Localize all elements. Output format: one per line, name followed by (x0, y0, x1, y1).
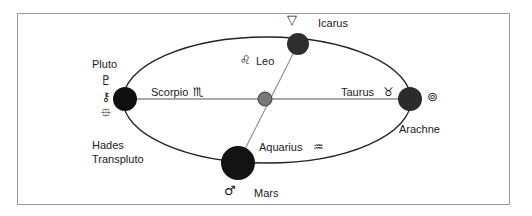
label-taurus: Taurus (341, 86, 374, 99)
arachne-glyph: ⊚ (427, 90, 438, 104)
label-leo: Leo (256, 55, 274, 68)
label-pluto: Pluto (92, 58, 117, 71)
label-transpluto: Transpluto (92, 153, 144, 166)
scorpio-glyph: ♏ (193, 85, 204, 99)
aquarius-glyph: ♒ (313, 140, 324, 154)
transpluto-glyph: ⯐ (101, 105, 111, 120)
figure-canvas: Pluto ♇ ⚷ ⯐ Hades Transpluto ▽ Icarus ⊚ … (0, 0, 532, 216)
label-arachne: Arachne (399, 123, 440, 136)
label-icarus: Icarus (318, 17, 348, 30)
node-mars[interactable] (221, 146, 255, 180)
label-aquarius: Aquarius (259, 141, 302, 154)
node-center[interactable] (258, 92, 272, 106)
icarus-glyph: ▽ (287, 13, 297, 27)
pluto-glyph: ♇ (100, 73, 112, 88)
node-icarus[interactable] (287, 33, 309, 55)
node-arachne[interactable] (398, 87, 422, 111)
pluto-glyph-stack: ♇ ⚷ ⯐ (95, 73, 117, 120)
leo-glyph: ♌ (240, 53, 251, 67)
mars-glyph: ♂ (224, 184, 236, 198)
label-hades: Hades (92, 139, 124, 152)
label-scorpio: Scorpio (151, 86, 188, 99)
orbit-diagram (0, 0, 532, 216)
hades-glyph: ⚷ (101, 89, 111, 104)
label-mars: Mars (254, 187, 278, 200)
taurus-glyph: ♉ (383, 85, 394, 99)
